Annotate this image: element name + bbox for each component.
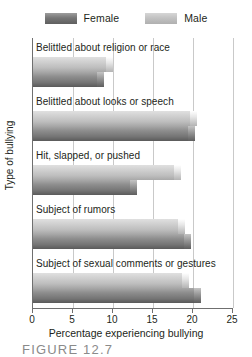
bar-cap-icon <box>184 234 191 249</box>
bar-cap-icon <box>194 288 201 303</box>
category-label-1: Belittled about looks or speech <box>36 96 174 107</box>
bar-cap-icon <box>106 57 113 72</box>
category-label-0: Belittled about religion or race <box>36 42 170 53</box>
bar-cap-icon <box>190 111 197 126</box>
bar-cap-icon <box>188 126 195 141</box>
legend-label-male: Male <box>184 12 207 24</box>
x-tick-label-25: 25 <box>226 314 237 325</box>
x-tick-label-5: 5 <box>69 314 75 325</box>
bar-male-0 <box>33 57 113 72</box>
bar-male-2 <box>33 165 181 180</box>
bar-group-3: Subject of rumors <box>33 204 233 258</box>
bar-female-3 <box>33 234 191 249</box>
bar-male-1 <box>33 111 197 126</box>
bar-group-2: Hit, slapped, or pushed <box>33 150 233 204</box>
bar-female-2 <box>33 180 137 195</box>
bar-male-4 <box>33 273 189 288</box>
bar-cap-icon <box>174 165 181 180</box>
x-axis-line <box>32 308 232 309</box>
legend-label-female: Female <box>84 12 120 24</box>
bar-group-0: Belittled about religion or race <box>33 42 233 96</box>
bar-cap-icon <box>97 72 104 87</box>
gridline-25 <box>233 38 234 308</box>
bar-female-0 <box>33 72 104 87</box>
category-label-2: Hit, slapped, or pushed <box>36 150 140 161</box>
bar-group-4: Subject of sexual comments or gestures <box>33 258 233 312</box>
bar-male-3 <box>33 219 185 234</box>
bar-cap-icon <box>182 273 189 288</box>
x-tick-25 <box>232 308 233 313</box>
bar-group-1: Belittled about looks or speech <box>33 96 233 150</box>
bar-female-4 <box>33 288 201 303</box>
chart-legend: Female Male <box>0 12 252 24</box>
plot-area: Belittled about religion or race Belittl… <box>32 38 233 308</box>
x-tick-0 <box>32 308 33 313</box>
legend-item-female: Female <box>45 12 120 24</box>
x-tick-label-0: 0 <box>29 314 35 325</box>
x-tick-10 <box>112 308 113 313</box>
x-tick-label-20: 20 <box>186 314 197 325</box>
x-tick-15 <box>152 308 153 313</box>
x-axis-title: Percentage experiencing bullying <box>0 327 252 339</box>
bar-female-1 <box>33 126 195 141</box>
x-tick-label-10: 10 <box>106 314 117 325</box>
bar-cap-icon <box>130 180 137 195</box>
legend-swatch-male-icon <box>145 13 177 24</box>
y-axis-title: Type of bullying <box>4 96 15 216</box>
category-label-3: Subject of rumors <box>36 204 115 215</box>
x-tick-label-15: 15 <box>146 314 157 325</box>
x-tick-20 <box>192 308 193 313</box>
legend-swatch-female-icon <box>45 13 77 24</box>
figure-caption: FIGURE 12.7 <box>22 342 113 357</box>
legend-item-male: Male <box>145 12 207 24</box>
bar-cap-icon <box>178 219 185 234</box>
x-tick-5 <box>72 308 73 313</box>
category-label-4: Subject of sexual comments or gestures <box>36 258 216 269</box>
